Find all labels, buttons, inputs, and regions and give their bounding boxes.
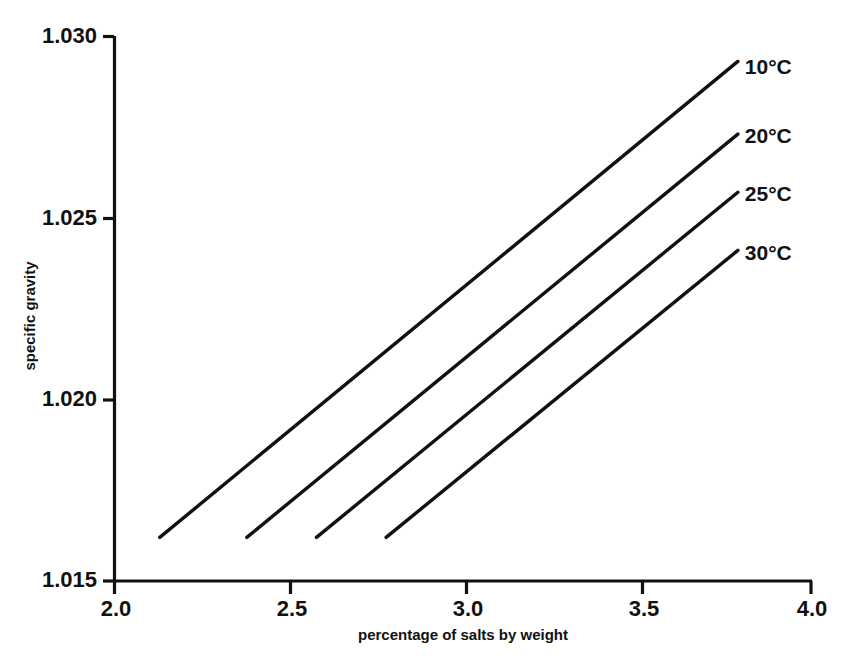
y-tick-group [103,37,114,582]
series-line-20c [247,134,738,537]
x-tick-label-4-0: 4.0 [797,596,828,621]
x-tick-label-2-0: 2.0 [101,596,132,621]
series-line-group [160,61,738,537]
x-tick-label-2-5: 2.5 [277,596,308,621]
y-tick-label-1015: 1.015 [42,567,97,592]
series-label-25c: 25°C [745,182,792,205]
series-line-10c [160,61,738,537]
axis-group [113,36,812,581]
series-line-30c [386,250,738,537]
x-tick-group [115,581,812,594]
series-label-20c: 20°C [745,124,792,147]
series-label-group: 10°C20°C25°C30°C [745,55,792,263]
y-tick-label-1020: 1.020 [42,386,97,411]
x-tick-label-3-5: 3.5 [629,596,660,621]
series-line-25c [316,192,737,537]
x-tick-labels: 2.0 2.5 3.0 3.5 4.0 [101,596,828,621]
chart-figure: 1.030 1.025 1.020 1.015 2.0 2.5 3.0 3.5 … [0,0,846,664]
x-axis-title: percentage of salts by weight [358,626,568,643]
y-tick-label-1030: 1.030 [42,23,97,48]
specific-gravity-line-chart: 1.030 1.025 1.020 1.015 2.0 2.5 3.0 3.5 … [0,0,846,664]
series-label-10c: 10°C [745,55,792,78]
y-tick-labels: 1.030 1.025 1.020 1.015 [42,23,97,592]
x-tick-label-3-0: 3.0 [453,596,484,621]
series-label-30c: 30°C [745,241,792,264]
y-tick-label-1025: 1.025 [42,205,97,230]
y-axis-title: specific gravity [21,261,38,371]
